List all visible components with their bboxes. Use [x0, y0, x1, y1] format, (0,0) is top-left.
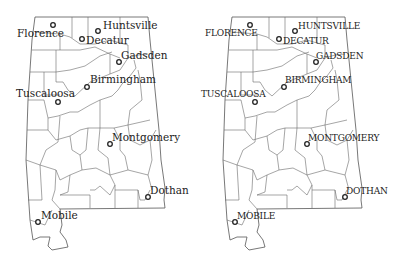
florence-marker [248, 23, 253, 28]
decatur-marker [277, 37, 282, 42]
tuscaloosa-marker [56, 100, 61, 105]
city-label-florence: FLORENCE [205, 29, 258, 38]
city-label-gadsden: Gadsden [121, 50, 167, 61]
city-label-dothan: Dothan [150, 185, 189, 196]
city-label-florence: Florence [17, 28, 64, 39]
city-label-tuscaloosa: TUSCALOOSA [201, 90, 266, 99]
tuscaloosa-marker [253, 100, 258, 105]
huntsville-marker [96, 29, 101, 34]
city-label-mobile: MOBILE [237, 212, 275, 221]
alabama-map-upper-case: FLORENCE HUNTSVILLE DECATUR GADSDEN BIRM… [197, 0, 394, 261]
city-label-tuscaloosa: Tuscaloosa [16, 88, 75, 99]
birmingham-marker [282, 85, 287, 90]
birmingham-marker [85, 85, 90, 90]
city-label-dothan: DOTHAN [346, 187, 388, 196]
city-label-mobile: Mobile [41, 210, 78, 221]
city-label-decatur: Decatur [86, 35, 129, 46]
city-label-huntsville: Huntsville [103, 20, 158, 31]
city-label-decatur: DECATUR [283, 37, 329, 46]
mobile-marker [36, 220, 41, 225]
city-label-montgomery: Montgomery [112, 132, 180, 143]
city-label-huntsville: HUNTSVILLE [298, 22, 360, 31]
decatur-marker [80, 37, 85, 42]
city-label-gadsden: GADSDEN [316, 52, 363, 61]
huntsville-marker [293, 29, 298, 34]
alabama-map-title-case: Florence Huntsville Decatur Gadsden Birm… [0, 0, 197, 261]
city-label-birmingham: Birmingham [90, 74, 156, 85]
city-label-montgomery: MONTGOMERY [308, 134, 379, 143]
city-label-birmingham: BIRMINGHAM [285, 76, 351, 85]
